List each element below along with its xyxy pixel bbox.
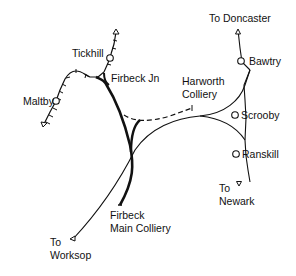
label-bawtry: Bawtry: [249, 55, 281, 67]
arrow-triangle-icon: [70, 236, 75, 241]
arrow-triangle-icon: [236, 29, 241, 34]
label-scrooby: Scrooby: [241, 109, 280, 121]
arrow-triangle-icon: [41, 122, 47, 127]
label-maltby: Maltby: [23, 95, 54, 107]
maltby-tickhill-line: [44, 32, 117, 124]
label-harworth-line1: Harworth: [182, 75, 225, 87]
label-ranskill: Ranskill: [242, 148, 279, 160]
label-to-doncaster: To Doncaster: [209, 12, 271, 24]
arrow-triangle-icon: [113, 29, 119, 34]
station-bawtry-marker: [238, 58, 245, 65]
label-firbeck-main-line2: Main Colliery: [110, 222, 171, 234]
worksop-main-line: [73, 70, 250, 239]
label-to-worksop-line1: To: [50, 236, 61, 248]
label-harworth-line2: Colliery: [182, 88, 217, 100]
railway-map: [0, 0, 296, 276]
label-to-newark-line1: To: [219, 182, 230, 194]
station-ranskill-marker: [233, 151, 240, 158]
label-tickhill: Tickhill: [72, 47, 104, 59]
label-firbeck-main-line1: Firbeck: [110, 209, 144, 221]
label-to-newark-line2: Newark: [219, 195, 255, 207]
station-scrooby-marker: [232, 112, 239, 119]
station-tickhill-marker: [107, 55, 114, 62]
label-to-worksop-line2: Worksop: [50, 249, 91, 261]
arrow-triangle-icon: [237, 182, 242, 187]
firbeck-branch: [96, 73, 140, 205]
label-firbeck-jn: Firbeck Jn: [111, 72, 159, 84]
